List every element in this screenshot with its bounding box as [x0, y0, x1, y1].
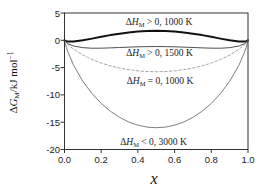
x-tick-label: 0.0	[52, 154, 78, 165]
x-tick-label: 1.0	[235, 154, 261, 165]
x-tick-label: 0.8	[198, 154, 224, 165]
y-tick-label: 5	[38, 8, 60, 19]
free-energy-of-mixing-chart: 5 0 -5 -10 -15 -20 0.0 0.2 0.4 0.6 0.8 1…	[0, 0, 271, 196]
x-axis-title: x	[134, 169, 174, 189]
x-tick-label: 0.2	[88, 154, 114, 165]
annotation-dh-zero-1000k: ΔHM = 0, 1000 K	[95, 75, 225, 87]
x-tick-label: 0.4	[125, 154, 151, 165]
y-tick-label: -15	[38, 117, 60, 128]
y-tick-label: -5	[38, 62, 60, 73]
annotation-dh-positive-1500k: ΔHM > 0, 1500 K	[95, 47, 225, 59]
annotation-dh-negative-3000k: ΔHM < 0, 3000 K	[89, 136, 219, 148]
y-tick-label: -10	[38, 89, 60, 100]
y-tick-label: 0	[38, 35, 60, 46]
x-tick-label: 0.6	[162, 154, 188, 165]
annotation-dh-positive-1000k: ΔHM > 0, 1000 K	[94, 16, 224, 28]
y-axis-title: ΔGM/kJ mol−1	[6, 13, 21, 153]
